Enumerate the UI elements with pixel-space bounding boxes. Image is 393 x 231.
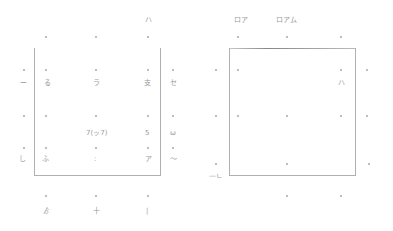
row2-cell3: 5 bbox=[145, 130, 149, 137]
grid-dot bbox=[147, 115, 149, 117]
left-bracket-left bbox=[34, 48, 35, 175]
grid-dot bbox=[23, 147, 25, 149]
grid-dot bbox=[172, 147, 174, 149]
grid-dot bbox=[286, 163, 288, 165]
right-top-label-2: ロアム bbox=[276, 17, 297, 24]
row1-left: ー bbox=[20, 80, 27, 87]
row1-cell1: る bbox=[44, 80, 51, 87]
grid-dot bbox=[340, 36, 342, 38]
grid-dot bbox=[147, 69, 149, 71]
grid-dot bbox=[45, 69, 47, 71]
left-top-label: ハ bbox=[145, 17, 152, 24]
grid-dot bbox=[95, 36, 97, 38]
bottom-label-3: | bbox=[146, 208, 148, 215]
grid-dot bbox=[147, 195, 149, 197]
row1-cell3: 支 bbox=[144, 80, 151, 87]
grid-dot bbox=[45, 147, 47, 149]
grid-dot bbox=[215, 69, 217, 71]
grid-dot bbox=[95, 147, 97, 149]
grid-dot bbox=[95, 195, 97, 197]
grid-dot bbox=[368, 163, 370, 165]
grid-dot bbox=[172, 115, 174, 117]
grid-dot bbox=[147, 147, 149, 149]
grid-dot bbox=[215, 115, 217, 117]
right-bracket-right bbox=[355, 48, 356, 175]
row2-right: ω bbox=[170, 130, 176, 137]
grid-dot bbox=[172, 69, 174, 71]
bottom-label-2: 十 bbox=[93, 208, 100, 215]
grid-dot bbox=[23, 115, 25, 117]
left-bracket-bottom bbox=[34, 175, 161, 176]
grid-dot bbox=[45, 195, 47, 197]
grid-dot bbox=[340, 69, 342, 71]
row2-cell2: 7(ッ7) bbox=[86, 130, 107, 137]
grid-dot bbox=[237, 69, 239, 71]
row1-right: セ bbox=[170, 80, 177, 87]
corner-label: —ㄴ bbox=[209, 173, 222, 180]
grid-dot bbox=[147, 36, 149, 38]
grid-dot bbox=[286, 115, 288, 117]
right-top-label-1: ロア bbox=[234, 17, 248, 24]
row3-left: し bbox=[19, 156, 26, 163]
grid-dot bbox=[286, 195, 288, 197]
right-bracket-top bbox=[229, 48, 356, 49]
bottom-label-1: ゟ bbox=[43, 208, 50, 215]
grid-dot bbox=[237, 36, 239, 38]
grid-dot bbox=[366, 69, 368, 71]
right-bracket-bottom bbox=[229, 175, 356, 176]
grid-dot bbox=[45, 36, 47, 38]
grid-dot bbox=[366, 115, 368, 117]
grid-dot bbox=[95, 69, 97, 71]
row3-cell3: ア bbox=[145, 156, 152, 163]
grid-dot bbox=[45, 115, 47, 117]
right-inner-label: ハ bbox=[338, 80, 345, 87]
left-bracket-right bbox=[160, 48, 161, 175]
row3-right: 〜 bbox=[170, 156, 177, 163]
row3-cell2: : bbox=[94, 156, 96, 163]
right-bracket-left bbox=[229, 48, 230, 175]
grid-dot bbox=[340, 195, 342, 197]
grid-dot bbox=[340, 115, 342, 117]
grid-dot bbox=[23, 69, 25, 71]
grid-dot bbox=[286, 36, 288, 38]
row3-cell1: ふ bbox=[42, 156, 49, 163]
grid-dot bbox=[237, 115, 239, 117]
grid-dot bbox=[95, 115, 97, 117]
row1-cell2: ラ bbox=[93, 80, 100, 87]
grid-dot bbox=[215, 163, 217, 165]
